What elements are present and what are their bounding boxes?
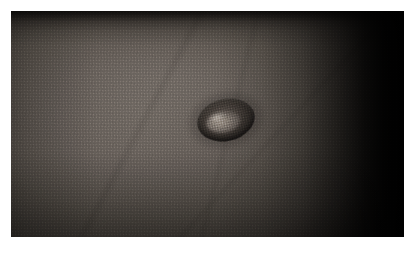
skin-lesion xyxy=(193,93,259,147)
figure-root: Close-up clinical photograph of dark ski… xyxy=(0,0,414,254)
clinical-photograph xyxy=(11,11,404,237)
